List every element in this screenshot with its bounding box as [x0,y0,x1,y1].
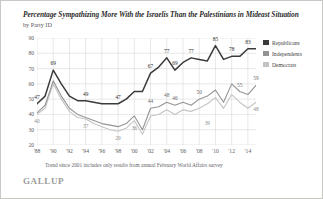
data-point-label: 36 [132,125,137,131]
plot-area: 2030405060708090'88'90'92'94'96'98'00'02… [37,38,256,145]
legend-item[interactable]: Independents [263,48,321,59]
y-axis-tick-label: 40 [28,111,34,117]
data-point-label: 85 [213,36,218,42]
page-subtitle: by Party ID [23,21,52,28]
gallup-chart-figure: Percentage Sympathizing More With the Is… [0,0,323,199]
y-axis-tick-label: 50 [28,96,34,102]
x-axis-tick-label: '92 [66,148,73,154]
x-axis-tick-label: '90 [50,148,57,154]
data-point-label: 69 [172,60,177,66]
chart-legend: RepublicansIndependentsDemocrats [263,37,321,70]
legend-item[interactable]: Republicans [263,37,321,48]
x-axis-tick-label: '88 [34,148,41,154]
data-point-label: 69 [51,60,56,66]
series-line-independents [37,81,256,130]
x-axis-tick-label: '10 [212,148,219,154]
y-axis-tick-label: 90 [28,35,34,41]
data-point-label: 47 [34,94,39,100]
data-point-label: 77 [188,48,193,54]
x-axis-tick-label: '04 [163,148,170,154]
data-point-label: 55 [237,82,242,88]
data-point-label: 44 [148,98,153,104]
data-point-label: 29 [115,135,120,141]
x-axis-tick-label: '02 [147,148,154,154]
data-point-label: 59 [253,75,258,81]
legend-swatch-icon [263,62,269,68]
legend-label: Republicans [272,40,300,46]
legend-swatch-icon [263,51,269,57]
chart-footnote: Trend since 2001 includes only results f… [45,162,223,168]
x-axis-tick-label: '06 [180,148,187,154]
data-point-label: 67 [148,63,153,69]
y-axis-tick-label: 60 [28,81,34,87]
x-axis-tick-label: '98 [115,148,122,154]
x-axis-tick-label: '12 [228,148,235,154]
data-point-label: 48 [253,106,258,112]
data-point-label: 46 [172,95,177,101]
data-point-label: 78 [229,46,234,52]
x-axis-tick-label: '00 [131,148,138,154]
legend-item[interactable]: Democrats [263,59,321,70]
data-point-label: 37 [83,123,88,129]
data-point-label: 40 [34,118,39,124]
data-point-label: 39 [205,120,210,126]
legend-label: Democrats [272,62,296,68]
line-chart-svg [37,38,256,145]
series-line-republicans [37,46,256,104]
data-point-label: 77 [164,48,169,54]
data-point-label: 83 [245,39,250,45]
data-point-label: 50 [197,89,202,95]
y-axis-tick-label: 30 [28,127,34,133]
legend-label: Independents [272,51,302,57]
gallup-logo: GALLUP [23,176,64,186]
x-axis-tick-label: '94 [82,148,89,154]
legend-swatch-icon [263,40,269,46]
x-axis-tick-label: '14 [245,148,252,154]
data-point-label: 49 [83,91,88,97]
x-axis-tick-label: '08 [196,148,203,154]
data-point-label: 47 [115,94,120,100]
x-axis-tick-label: '96 [99,148,106,154]
page-title: Percentage Sympathizing More With the Is… [23,10,313,19]
y-axis-tick-label: 70 [28,66,34,72]
data-point-label: 48 [164,92,169,98]
y-axis-tick-label: 80 [28,50,34,56]
